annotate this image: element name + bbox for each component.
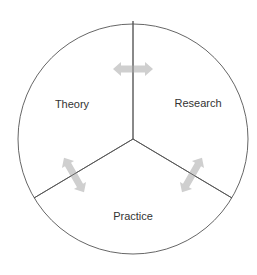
sector-label-theory: Theory: [55, 98, 90, 110]
sector-label-practice: Practice: [113, 210, 153, 222]
theory-research-practice-diagram: Theory Research Practice: [0, 0, 257, 275]
sector-label-research: Research: [174, 97, 221, 109]
